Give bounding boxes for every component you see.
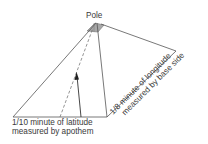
latitude-label-line2: measured by apothem <box>12 127 93 136</box>
pyramid-diagram: Pole 1/10 minute of latitude measured by… <box>0 0 208 144</box>
back-edge <box>101 24 176 51</box>
latitude-label: 1/10 minute of latitude measured by apot… <box>12 118 93 136</box>
front-edge <box>97 23 107 117</box>
arrow-line <box>77 76 81 117</box>
pole-label: Pole <box>86 11 102 20</box>
arrow-head-icon <box>75 72 80 80</box>
left-edge <box>13 23 96 117</box>
latitude-label-line1: 1/10 minute of latitude <box>12 118 93 127</box>
